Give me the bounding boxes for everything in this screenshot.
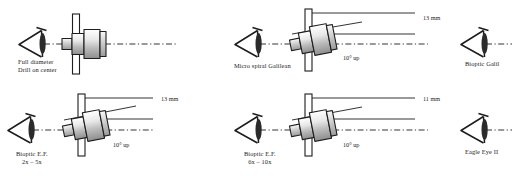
temple-tip [26, 114, 36, 117]
caption-line-1: Full diameter [18, 58, 54, 65]
temple-tip [479, 114, 489, 117]
leader-lines [64, 98, 153, 120]
carrier-lens-edge [29, 119, 35, 140]
panel-bioptic-ef-2x-5x: 13 mm 10° up Bioptic E.F. 2x – 5x [0, 88, 200, 184]
panel-eagle-eye-ii: Eagle Eye II [440, 88, 513, 184]
figure-bioptic-ef-2x-5x [0, 88, 200, 184]
panel-caption: Full diameter Drill on center [18, 58, 57, 74]
caption-line-1: Eagle Eye II [465, 148, 498, 155]
figure-bioptic-ef-6x-10x [230, 88, 430, 184]
telescope-barrel [61, 109, 111, 146]
leader-label: 11 mm [423, 95, 440, 102]
figure-full-diameter [0, 0, 180, 92]
tilt-label: 10° up [343, 54, 359, 61]
spectacle-frame-icon [461, 31, 485, 58]
caption-line-2: 2x – 5x [16, 158, 48, 166]
panel-full-diameter-drill-on-center: Full diameter Drill on center [0, 0, 180, 92]
telescope-barrel [288, 109, 338, 146]
carrier-lens-edge [482, 33, 488, 54]
caption-line-2: 6x – 10x [244, 158, 276, 166]
caption-line-1: Bioptic Galil [465, 60, 500, 67]
spectacle-frame-icon [235, 117, 259, 144]
leader-label: 13 mm [161, 95, 178, 102]
panel-caption: Bioptic E.F. 6x – 10x [244, 150, 276, 166]
leader-label: 13 mm [423, 14, 440, 21]
temple-tip [253, 114, 263, 117]
panel-caption: Bioptic E.F. 2x – 5x [16, 150, 48, 166]
figure-eagle-eye-ii [440, 88, 513, 184]
panel-bioptic-ef-6x-10x: 11 mm 10° up Bioptic E.F. 6x – 10x [230, 88, 430, 184]
tilt-label: 10° up [113, 141, 129, 148]
temple-tip [479, 28, 489, 31]
panel-caption: Eagle Eye II [465, 148, 498, 156]
caption-line-1: Bioptic E.F. [244, 150, 276, 157]
panel-bioptic-galilean: Bioptic Galil [440, 0, 513, 92]
spectacle-frame-icon [19, 31, 43, 58]
spectacle-frame-icon [461, 117, 485, 144]
spectacle-frame-icon [235, 31, 259, 58]
figure-bioptic-galilean [440, 0, 513, 92]
temple-tip [253, 28, 263, 31]
carrier-lens-edge [256, 33, 262, 54]
carrier-lens-edge [256, 119, 262, 140]
telescope-barrel [62, 30, 106, 59]
panel-caption: Micro spiral Galilean [234, 62, 291, 70]
carrier-lens-edge [40, 33, 46, 54]
spectacle-frame-icon [8, 117, 32, 144]
figure-micro-spiral-galilean [230, 0, 430, 92]
caption-line-2: Drill on center [18, 66, 57, 74]
carrier-lens-edge [482, 119, 488, 140]
caption-line-1: Bioptic E.F. [16, 150, 48, 157]
panel-micro-spiral-galilean: 13 mm 10° up Micro spiral Galilean [230, 0, 430, 92]
panel-caption: Bioptic Galil [465, 60, 500, 68]
telescope-barrel [288, 23, 338, 60]
caption-line-1: Micro spiral Galilean [234, 62, 291, 69]
diagram-sheet: Full diameter Drill on center [0, 0, 513, 184]
tilt-label: 10° up [343, 141, 359, 148]
temple-tip [37, 28, 47, 31]
